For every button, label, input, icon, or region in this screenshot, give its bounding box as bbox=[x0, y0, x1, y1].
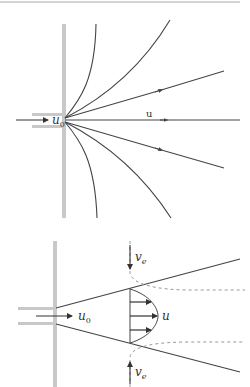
streamlines bbox=[65, 20, 240, 218]
nozzle-lower bbox=[18, 322, 55, 325]
jet-boundary-upper bbox=[56, 259, 240, 308]
top-panel: u0 u bbox=[16, 20, 240, 218]
entrainment-streamline-top bbox=[130, 241, 245, 290]
jet-boundary-lower bbox=[56, 324, 240, 372]
entrainment-streamline-bottom bbox=[130, 342, 245, 387]
arrow-upper-ray bbox=[155, 90, 161, 92]
bottom-panel: u0 u ve ve bbox=[18, 241, 245, 387]
downstream-velocity-label: u bbox=[146, 108, 153, 119]
arrow-lower-ray bbox=[155, 148, 161, 150]
entrainment-label-bottom: ve bbox=[135, 365, 147, 381]
entrainment-label-top: ve bbox=[135, 250, 147, 266]
profile-velocity-label: u bbox=[162, 309, 170, 323]
inlet-label: u0 bbox=[78, 309, 91, 325]
jet-diagram: u0 u u0 u bbox=[0, 0, 250, 387]
wall bbox=[53, 241, 57, 387]
nozzle-upper bbox=[18, 307, 55, 310]
